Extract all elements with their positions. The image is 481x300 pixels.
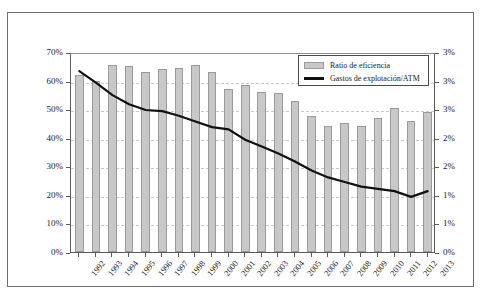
- left-axis-tick-label: 40%: [29, 134, 63, 143]
- category-tick: [327, 253, 328, 257]
- left-axis-tick-label: 50%: [29, 105, 63, 114]
- category-tick: [344, 253, 345, 257]
- category-label-2003: 2003: [272, 259, 290, 278]
- category-tick: [128, 253, 129, 257]
- category-label-2012: 2012: [422, 259, 440, 278]
- category-label-1993: 1993: [106, 259, 124, 278]
- gastos-explotacion-line: [79, 71, 427, 197]
- legend-item-label: Gastos de explotación/ATM: [330, 74, 420, 83]
- category-label-2002: 2002: [256, 259, 274, 278]
- left-axis-tick: [66, 253, 70, 254]
- category-tick: [145, 253, 146, 257]
- category-tick: [261, 253, 262, 257]
- category-label-1997: 1997: [173, 259, 191, 278]
- category-tick: [360, 253, 361, 257]
- left-axis-tick: [66, 224, 70, 225]
- left-axis-tick-label: 30%: [29, 162, 63, 171]
- category-label-1998: 1998: [189, 259, 207, 278]
- category-tick: [410, 253, 411, 257]
- category-tick: [394, 253, 395, 257]
- category-tick: [178, 253, 179, 257]
- right-axis-tick: [435, 224, 439, 225]
- right-axis-tick-label: 0%: [443, 248, 471, 257]
- category-label-1999: 1999: [206, 259, 224, 278]
- category-label-2008: 2008: [355, 259, 373, 278]
- category-label-2004: 2004: [289, 259, 307, 278]
- category-tick: [95, 253, 96, 257]
- right-axis-tick: [435, 196, 439, 197]
- category-label-1994: 1994: [123, 259, 141, 278]
- bar-swatch-icon: [304, 62, 324, 69]
- category-tick: [294, 253, 295, 257]
- right-axis-tick: [435, 167, 439, 168]
- category-label-2007: 2007: [339, 259, 357, 278]
- category-tick: [228, 253, 229, 257]
- category-label-1992: 1992: [90, 259, 108, 278]
- right-axis-tick: [435, 53, 439, 54]
- category-tick: [111, 253, 112, 257]
- category-tick: [427, 253, 428, 257]
- left-axis-tick-label: 60%: [29, 77, 63, 86]
- right-axis-tick-label: 3%: [443, 77, 471, 86]
- right-axis-tick-label: 3%: [443, 105, 471, 114]
- category-tick: [377, 253, 378, 257]
- category-label-2013: 2013: [438, 259, 456, 278]
- left-axis-tick-label: 10%: [29, 219, 63, 228]
- right-axis-tick-label: 2%: [443, 134, 471, 143]
- chart-legend: Ratio de eficiencia Gastos de explotació…: [298, 55, 429, 86]
- legend-item-ratio-de-eficiencia[interactable]: Ratio de eficiencia: [304, 59, 423, 71]
- right-axis-tick-label: 1%: [443, 219, 471, 228]
- category-label-2011: 2011: [405, 259, 422, 278]
- category-tick: [78, 253, 79, 257]
- left-axis-tick: [66, 196, 70, 197]
- category-tick: [161, 253, 162, 257]
- right-axis-tick: [435, 253, 439, 254]
- right-axis-tick-label: 1%: [443, 191, 471, 200]
- category-label-2001: 2001: [239, 259, 257, 278]
- right-axis-tick: [435, 110, 439, 111]
- category-tick: [277, 253, 278, 257]
- category-label-2000: 2000: [223, 259, 241, 278]
- left-axis-tick-label: 20%: [29, 191, 63, 200]
- line-swatch-icon: [304, 77, 324, 80]
- left-axis-tick: [66, 167, 70, 168]
- category-label-2005: 2005: [306, 259, 324, 278]
- figure-frame: 0%10%20%30%40%50%60%70% 0%1%1%2%2%3%3%3%…: [7, 12, 474, 287]
- left-axis-tick: [66, 82, 70, 83]
- right-axis-tick: [435, 82, 439, 83]
- category-tick: [311, 253, 312, 257]
- right-axis-tick-label: 3%: [443, 48, 471, 57]
- legend-item-label: Ratio de eficiencia: [330, 61, 390, 70]
- right-axis-tick: [435, 139, 439, 140]
- left-axis-tick: [66, 53, 70, 54]
- category-label-1996: 1996: [156, 259, 174, 278]
- legend-item-gastos-de-explotacion-atm[interactable]: Gastos de explotación/ATM: [304, 72, 423, 84]
- category-label-2009: 2009: [372, 259, 390, 278]
- category-label-2010: 2010: [388, 259, 406, 278]
- right-axis-tick-label: 2%: [443, 162, 471, 171]
- category-label-1995: 1995: [140, 259, 158, 278]
- left-axis-tick-label: 0%: [29, 248, 63, 257]
- category-tick: [211, 253, 212, 257]
- left-axis-tick-label: 70%: [29, 48, 63, 57]
- left-axis-tick: [66, 110, 70, 111]
- category-tick: [244, 253, 245, 257]
- category-tick: [194, 253, 195, 257]
- category-label-2006: 2006: [322, 259, 340, 278]
- left-axis-tick: [66, 139, 70, 140]
